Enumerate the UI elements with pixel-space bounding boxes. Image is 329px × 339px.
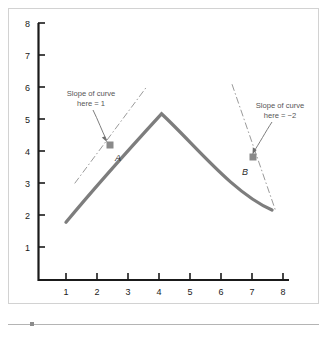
x-tick-label-6: 6 xyxy=(218,287,223,297)
annotation-b-leader-arrow xyxy=(254,122,273,152)
annotation-b-line1: Slope of curve xyxy=(256,101,305,110)
x-tick-label-7: 7 xyxy=(249,287,254,297)
x-tick-label-1: 1 xyxy=(63,287,68,297)
y-tick-label-4: 4 xyxy=(25,147,30,157)
y-tick-label-3: 3 xyxy=(25,179,30,189)
x-tick-label-3: 3 xyxy=(125,287,130,297)
chart-canvas: 8 7 6 5 4 3 2 1 1 2 3 4 5 6 xyxy=(0,0,329,339)
y-tick-label-8: 8 xyxy=(25,19,30,29)
footer-rule-line xyxy=(8,324,319,325)
y-tick-label-6: 6 xyxy=(25,83,30,93)
footer-rule xyxy=(8,322,319,328)
footer-rule-dot xyxy=(30,322,34,326)
annotation-slope-a: Slope of curve here = 1 xyxy=(67,89,116,143)
point-marker-b[interactable] xyxy=(250,154,257,161)
y-tick-label-2: 2 xyxy=(25,211,30,221)
y-tick-label-1: 1 xyxy=(25,243,30,253)
x-tick-label-2: 2 xyxy=(94,287,99,297)
figure-root: 8 7 6 5 4 3 2 1 1 2 3 4 5 6 xyxy=(0,0,329,339)
annotation-a-line1: Slope of curve xyxy=(67,89,116,98)
point-marker-a[interactable] xyxy=(107,142,114,149)
y-axis-tick-labels: 8 7 6 5 4 3 2 1 xyxy=(25,19,30,253)
x-tick-label-8: 8 xyxy=(280,287,285,297)
point-label-b: B xyxy=(242,167,248,177)
y-tick-label-5: 5 xyxy=(25,115,30,125)
annotation-slope-b: Slope of curve here = −2 xyxy=(253,101,305,155)
annotation-a-leader-arrow xyxy=(93,110,107,140)
x-tick-label-5: 5 xyxy=(187,287,192,297)
annotation-a-line2: here = 1 xyxy=(77,99,105,108)
axes-group xyxy=(38,23,289,281)
x-tick-label-4: 4 xyxy=(156,287,161,297)
point-label-a: A xyxy=(114,153,121,163)
annotation-b-line2: here = −2 xyxy=(264,111,297,120)
y-tick-label-7: 7 xyxy=(25,51,30,61)
x-axis-tick-labels: 1 2 3 4 5 6 7 8 xyxy=(63,287,285,297)
